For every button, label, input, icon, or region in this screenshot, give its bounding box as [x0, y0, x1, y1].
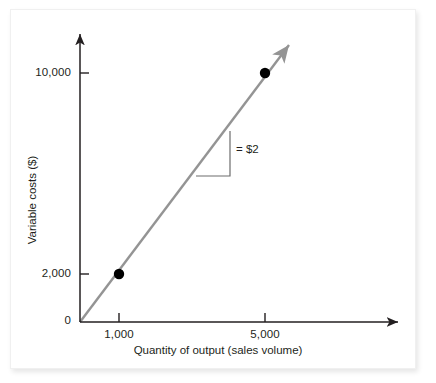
- y-axis: [80, 34, 89, 322]
- x-axis-tick-label-1000: 1,000: [104, 328, 133, 340]
- slope-annotation-label: = $2: [236, 143, 259, 155]
- y-axis-tick-label-2000: 2,000: [42, 267, 80, 279]
- variable-cost-line: [80, 45, 289, 322]
- x-axis-tick-label-5000: 5,000: [250, 328, 279, 340]
- x-axis-title: Quantity of output (sales volume): [134, 344, 303, 356]
- y-axis-title: Variable costs ($): [26, 156, 38, 245]
- y-axis-tick-label-10000: 10,000: [35, 66, 80, 78]
- data-point-5000: [260, 68, 270, 78]
- data-point-1000: [114, 269, 124, 279]
- slope-triangle-icon: [196, 131, 230, 176]
- origin-label: 0: [65, 314, 80, 326]
- figure-root: 10,000 2,000 0 1,000 5,000 Quantity of o…: [0, 0, 436, 383]
- x-axis: [80, 313, 398, 322]
